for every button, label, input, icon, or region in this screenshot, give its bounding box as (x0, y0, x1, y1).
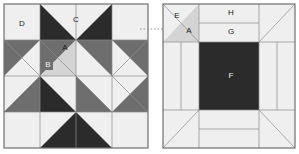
border-strip-G-bottom (199, 110, 259, 129)
label-G: G (228, 27, 234, 36)
corner-square-bl (4, 112, 40, 148)
label-F: F (229, 71, 234, 80)
label-C: C (73, 15, 79, 24)
label-A-left: A (62, 43, 68, 52)
label-D: D (19, 19, 25, 28)
border-strip-right-inner (259, 42, 277, 110)
quilt-diagram-svg: D C A B (0, 0, 299, 154)
right-block: E A H G F (163, 4, 295, 148)
border-strip-left-outer (163, 42, 181, 110)
corner-square-tr (112, 4, 148, 40)
label-H: H (228, 8, 234, 17)
border-strip-H-bottom (199, 129, 259, 148)
corner-square-br (112, 112, 148, 148)
label-E: E (174, 11, 179, 20)
label-B: B (45, 60, 50, 69)
left-block: D C A B (4, 4, 148, 148)
border-strip-right-outer (277, 42, 295, 110)
diagram-canvas: D C A B (0, 0, 299, 154)
label-A-right: A (186, 26, 192, 35)
border-strip-left-inner (181, 42, 199, 110)
